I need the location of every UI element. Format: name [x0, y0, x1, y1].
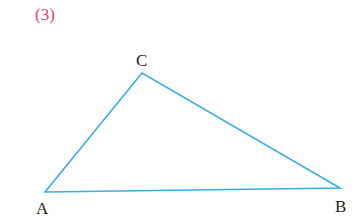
vertex-label-c: C: [136, 52, 147, 69]
vertex-label-b: B: [335, 198, 346, 215]
vertex-label-a: A: [36, 200, 48, 217]
triangle-abc: [45, 73, 340, 192]
triangle-figure: [0, 0, 354, 217]
